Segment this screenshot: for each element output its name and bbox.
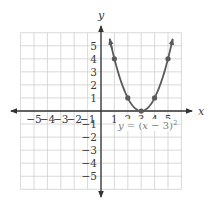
equation-label: y = (x − 3)2 [116,119,177,131]
y-tick-label: 5 [90,40,97,52]
y-tick-label: −3 [82,144,97,156]
plot-background [0,0,212,209]
y-tick-label: −1 [82,118,97,130]
y-tick-label: 4 [90,53,97,65]
data-point [125,95,130,100]
data-point [152,95,157,100]
equation-text: y = (x − 3)2 [117,119,177,131]
y-tick-label: 3 [90,66,97,78]
data-point [139,108,144,113]
y-tick-label: −4 [82,157,98,169]
data-point [112,56,117,61]
y-axis-label: y [97,9,105,22]
y-tick-label: 2 [90,79,97,91]
data-point [165,56,170,61]
y-tick-label: −2 [82,131,97,143]
y-tick-label: 1 [90,92,97,104]
y-tick-label: −5 [82,170,97,182]
x-axis-label: x [198,105,205,118]
parabola-graph: −5−4−3−2−11234554321−1−2−3−4−5 y = (x − … [0,0,212,209]
